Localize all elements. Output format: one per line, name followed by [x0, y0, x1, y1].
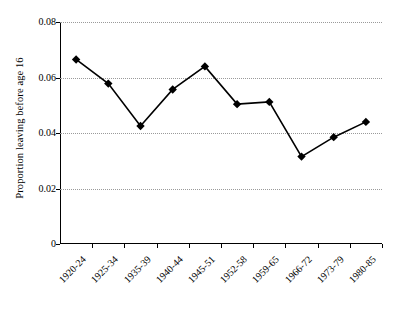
- plot-area: [60, 22, 382, 244]
- data-point-marker: [265, 98, 273, 106]
- y-axis-tick-label: 0.08: [30, 17, 56, 27]
- y-axis-tick-label: 0.06: [30, 73, 56, 83]
- data-point-marker: [362, 118, 370, 126]
- y-axis-title-label: Proportion leaving before age 16: [14, 8, 25, 248]
- data-point-marker: [330, 133, 338, 141]
- x-axis-tick-labels: 1920-241925-341935-391940-441945-511952-…: [0, 248, 405, 309]
- y-axis-tick-label: 0.04: [30, 128, 56, 138]
- y-axis-tick: [56, 244, 60, 245]
- chart-container: Proportion leaving before age 16 00.020.…: [0, 0, 405, 309]
- data-series: [60, 22, 382, 244]
- data-point-marker: [297, 152, 305, 160]
- y-axis-tick-label: 0.02: [30, 184, 56, 194]
- series-line: [76, 59, 366, 156]
